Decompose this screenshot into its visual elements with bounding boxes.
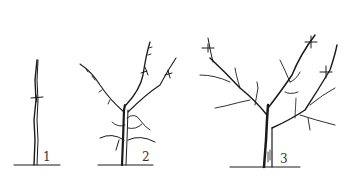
tree-3-mature [200,35,337,167]
diagram-drawing [0,0,352,181]
stage-label-2: 2 [142,150,150,164]
tree-2-young [80,42,176,165]
stage-label-1: 1 [43,150,51,164]
tree-1-whip [14,60,60,165]
stage-label-3: 3 [280,152,288,166]
pruning-diagram: 1 2 3 [0,0,352,181]
